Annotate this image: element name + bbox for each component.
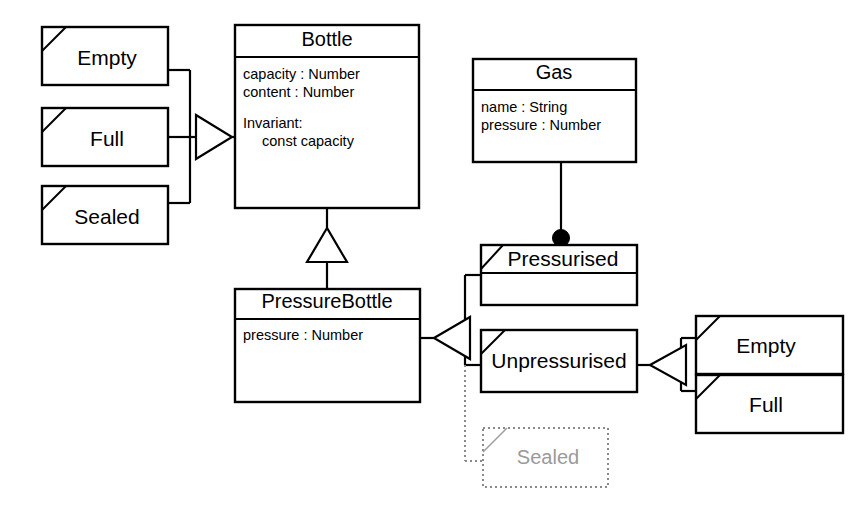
class-box-pressurebottle[interactable]: PressureBottle pressure : Number (235, 289, 420, 402)
class-title-bottle: Bottle (301, 28, 352, 50)
state-box-sealed[interactable]: Sealed (42, 186, 168, 244)
state-label-unpressurised: Unpressurised (491, 349, 626, 372)
generalization-arrow-pressurebottle (307, 228, 347, 262)
state-label-sealed-ghost: Sealed (517, 446, 579, 468)
state-box-sealed-ghost[interactable]: Sealed (483, 428, 608, 487)
connector-pressurebottle-states (420, 275, 481, 365)
class-box-gas[interactable]: Gas name : String pressure : Number (473, 59, 636, 162)
class-attribute-pressurebottle-pressure: pressure : Number (243, 327, 363, 343)
state-box-full-unpressurised[interactable]: Full (696, 375, 843, 433)
class-invariant-body-bottle: const capacity (262, 133, 355, 149)
class-box-bottle[interactable]: Bottle capacity : Number content : Numbe… (235, 25, 419, 208)
state-label-empty: Empty (77, 46, 137, 69)
state-label-full: Full (90, 127, 124, 150)
state-box-pressurised[interactable]: Pressurised (481, 245, 637, 305)
generalization-arrow-unpressurised-states (650, 345, 686, 385)
class-invariant-label-bottle: Invariant: (243, 115, 303, 131)
generalization-arrow-bottle-states (196, 115, 232, 159)
state-box-full[interactable]: Full (42, 108, 168, 166)
class-attribute-gas-name: name : String (481, 99, 567, 115)
generalization-arrow-pressure-states (434, 317, 470, 359)
class-attribute-bottle-content: content : Number (243, 84, 354, 100)
class-attribute-bottle-capacity: capacity : Number (243, 66, 360, 82)
class-attribute-gas-pressure: pressure : Number (481, 117, 601, 133)
class-title-gas: Gas (536, 61, 573, 83)
state-label-full-right: Full (749, 393, 783, 416)
uml-diagram-canvas: Empty Full Sealed Bottle capacity : Numb… (0, 0, 860, 505)
state-label-sealed: Sealed (74, 205, 139, 228)
class-title-pressurebottle: PressureBottle (261, 290, 392, 312)
state-box-unpressurised[interactable]: Unpressurised (481, 330, 637, 392)
state-box-empty[interactable]: Empty (42, 27, 168, 85)
state-label-pressurised: Pressurised (508, 247, 619, 270)
state-box-empty-unpressurised[interactable]: Empty (696, 316, 843, 374)
state-label-empty-right: Empty (736, 334, 796, 357)
